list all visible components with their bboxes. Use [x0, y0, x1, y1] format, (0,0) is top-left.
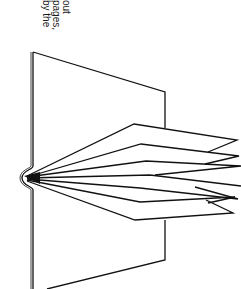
book-cover-bottom	[47, 220, 165, 289]
book-pages	[27, 124, 241, 220]
open-book-illustration	[0, 0, 241, 289]
book-cover-top	[33, 52, 165, 128]
